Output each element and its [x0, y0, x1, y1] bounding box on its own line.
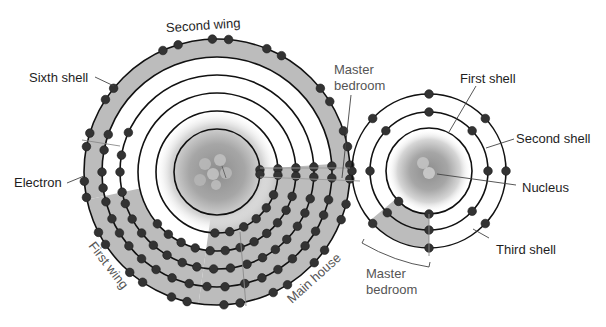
electron-dot — [258, 253, 267, 262]
electron-dot — [163, 251, 172, 260]
electron-dot — [239, 223, 248, 232]
electron-dot — [262, 229, 271, 238]
electron-dot — [250, 237, 259, 246]
electron-dot — [316, 84, 325, 93]
electron-dot — [468, 207, 477, 216]
electron-dot — [319, 211, 328, 220]
electron-dot — [258, 274, 267, 283]
electron-dot — [167, 293, 176, 302]
electron-dot — [320, 246, 329, 255]
electron-dot — [159, 46, 168, 55]
electron-dot — [206, 246, 215, 255]
electron-dot — [273, 218, 282, 227]
third-shell-leader — [473, 229, 489, 238]
electron-dot — [152, 265, 161, 274]
label-sixth-shell: Sixth shell — [29, 70, 88, 85]
electron-dot — [102, 197, 111, 206]
electron-dot — [368, 219, 377, 228]
electron-dot — [99, 184, 108, 193]
label-master-bedroom-top-line1: Master — [334, 62, 374, 77]
electron-dot — [208, 35, 217, 44]
label-first-shell: First shell — [460, 71, 516, 86]
label-master-bedroom-top-line2: bedroom — [334, 78, 385, 93]
electron-dot — [243, 260, 252, 269]
electron-dot — [425, 90, 434, 99]
electron-dot — [425, 108, 434, 117]
electron-dot — [104, 130, 113, 139]
electron-dot — [481, 219, 490, 228]
electron-dot — [263, 44, 272, 53]
label-master-bedroom-bottom-line1: Master — [366, 266, 406, 281]
electron-dot — [252, 214, 261, 223]
electron-dot — [288, 254, 297, 263]
electron-dot — [274, 265, 283, 274]
first-shell-leader — [449, 86, 476, 132]
electron-dot — [108, 214, 117, 223]
electron-dot — [98, 168, 107, 177]
electron-dot — [224, 35, 233, 44]
electron-dot — [293, 222, 302, 231]
electron-dot — [311, 227, 320, 236]
electron-dot — [282, 235, 291, 244]
electron-dot — [128, 215, 137, 224]
electron-dot — [174, 41, 183, 50]
electron-dot — [468, 126, 477, 135]
electron-dot — [86, 129, 95, 138]
electron-dot — [177, 238, 186, 247]
electron-dot — [115, 229, 124, 238]
electron-dot — [121, 199, 130, 208]
electron-dot — [236, 299, 245, 308]
electron-dot — [325, 97, 334, 106]
electron-dot — [277, 51, 286, 60]
electron-dot — [80, 177, 89, 186]
electron-dot — [118, 188, 127, 197]
electron-dot — [226, 264, 235, 273]
electron-dot — [394, 197, 403, 206]
electron-dot — [282, 206, 291, 215]
electron-dot — [94, 228, 103, 237]
label-electron: Electron — [14, 175, 62, 190]
electron-dot — [310, 163, 319, 172]
diagram-canvas: Second wing Sixth shell Electron First w… — [0, 0, 606, 327]
label-second-wing: Second wing — [166, 15, 241, 35]
electron-dot — [292, 172, 301, 181]
electron-dot — [149, 241, 158, 250]
electron-dot — [310, 173, 319, 182]
electron-dot — [138, 278, 147, 287]
electron-dot — [137, 254, 146, 263]
electron-dot — [117, 151, 126, 160]
electron-dot — [324, 196, 333, 205]
electron-dot — [82, 142, 91, 151]
label-master-bedroom-bottom-line2: bedroom — [366, 282, 417, 297]
electron-dot — [124, 128, 133, 137]
electron-dot — [100, 146, 109, 155]
electron-dot — [116, 168, 125, 177]
electron-dot — [382, 126, 391, 135]
electron-dot — [288, 192, 297, 201]
electron-dot — [328, 174, 337, 183]
electron-dot — [125, 242, 134, 251]
electron-dot — [236, 243, 245, 252]
electron-dot — [168, 274, 177, 283]
label-nucleus: Nucleus — [522, 180, 569, 195]
electron-dot — [82, 193, 91, 202]
electron-dot — [368, 114, 377, 123]
electron-dot — [183, 297, 192, 306]
label-second-shell: Second shell — [516, 131, 591, 146]
electron-dot — [283, 280, 292, 289]
electron-dot — [262, 204, 271, 213]
electron-dot — [337, 215, 346, 224]
electron-dot — [342, 200, 351, 209]
electron-dot — [209, 265, 218, 274]
electron-dot — [301, 209, 310, 218]
electron-dot — [221, 282, 230, 291]
electron-dot — [193, 263, 202, 272]
electron-dot — [269, 191, 278, 200]
electron-dot — [191, 244, 200, 253]
electron-dot — [271, 245, 280, 254]
electron-dot — [109, 84, 118, 93]
electron-dot — [306, 194, 315, 203]
electron-dot — [343, 142, 352, 151]
electron-dot — [225, 227, 234, 236]
electron-dot — [203, 282, 212, 291]
